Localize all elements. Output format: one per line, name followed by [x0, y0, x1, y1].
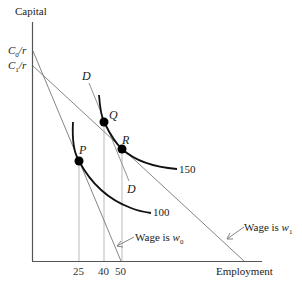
x-tick-50: 50 — [115, 266, 126, 277]
w1-var: w — [282, 221, 289, 233]
demand-label-top: D — [82, 70, 91, 82]
wage-w0-label: Wage is w0 — [135, 232, 183, 246]
arrow-w1-icon — [227, 227, 244, 239]
arrow-w0-icon — [117, 237, 134, 247]
point-q-dot — [100, 118, 109, 127]
y-intercept-c0: C0/r — [8, 45, 26, 59]
x-tick-40: 40 — [98, 266, 109, 277]
w1-sub: 1 — [289, 228, 293, 236]
isoquant-100-label: 100 — [153, 207, 170, 218]
x-tick-25: 25 — [73, 266, 84, 277]
wage-w1-label: Wage is w1 — [244, 222, 292, 236]
w0-sub: 0 — [180, 238, 184, 246]
w1-prefix: Wage is — [244, 221, 282, 233]
demand-label-bottom: D — [127, 183, 136, 195]
point-p-label: P — [79, 144, 86, 156]
x-axis-title: Employment — [216, 266, 273, 277]
isoquant-150-label: 150 — [179, 164, 196, 175]
labor-demand-diagram: Capital Employment C0/r C1/r 25 40 50 P … — [0, 0, 302, 285]
w0-var: w — [173, 231, 180, 243]
point-p-dot — [75, 157, 84, 166]
point-q-label: Q — [109, 109, 118, 121]
c0-rest: /r — [19, 44, 26, 56]
c1-rest: /r — [19, 59, 26, 71]
y-intercept-c1: C1/r — [8, 60, 26, 74]
isoquant-150 — [99, 95, 177, 169]
w0-prefix: Wage is — [135, 231, 173, 243]
point-r-label: R — [122, 134, 129, 146]
y-axis-title: Capital — [15, 6, 47, 17]
